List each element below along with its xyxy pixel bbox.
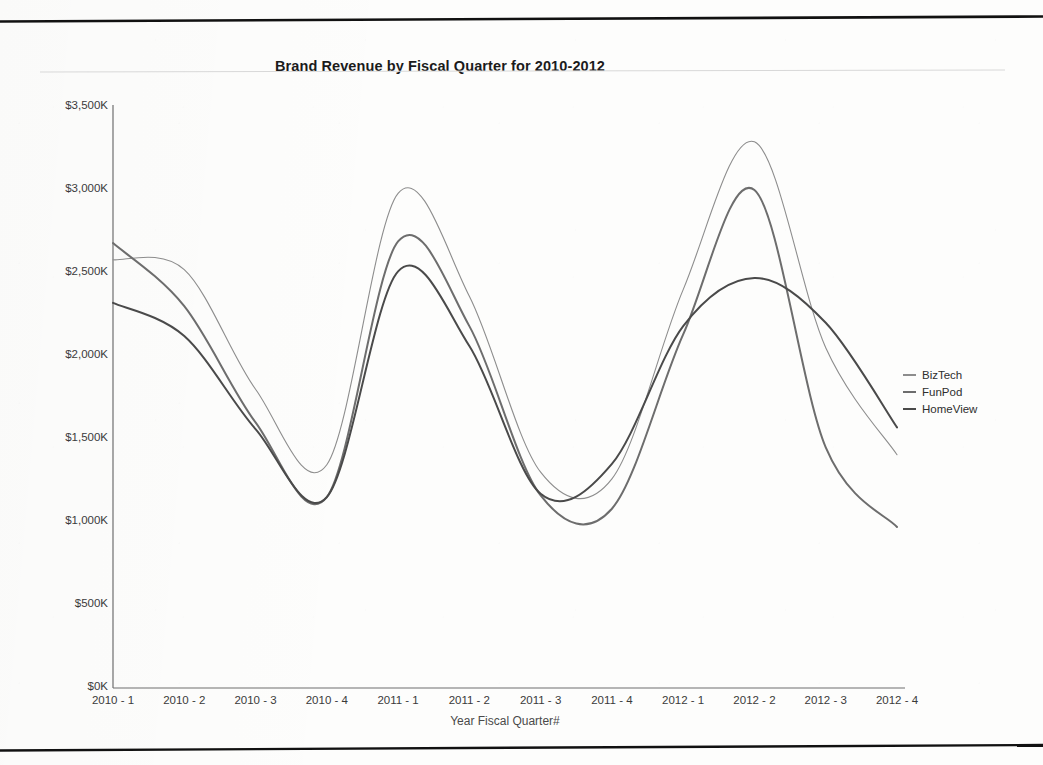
x-axis-tick-labels: 2010 - 12010 - 22010 - 32010 - 42011 - 1…: [0, 0, 1043, 765]
legend-item-biztech[interactable]: BizTech: [903, 367, 1033, 383]
legend-item-label: HomeView: [922, 403, 977, 415]
legend-item-label: BizTech: [922, 369, 962, 381]
legend-item-funpod[interactable]: FunPod: [903, 384, 1033, 400]
legend-item-label: FunPod: [922, 386, 962, 398]
chart-legend: BizTechFunPodHomeView: [903, 367, 1033, 418]
x-axis-title: Year Fiscal Quarter#: [113, 714, 897, 728]
legend-line-swatch-icon: [903, 374, 916, 376]
legend-item-homeview[interactable]: HomeView: [903, 401, 1033, 417]
line-chart: Brand Revenue by Fiscal Quarter for 2010…: [0, 0, 1043, 765]
legend-line-swatch-icon: [903, 408, 916, 410]
legend-line-swatch-icon: [903, 391, 916, 393]
x-axis-tick-label: 2012 - 4: [842, 694, 952, 706]
